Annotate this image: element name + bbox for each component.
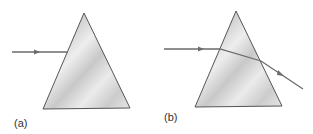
prism-diagram xyxy=(0,0,313,134)
arrow-icon xyxy=(34,50,40,55)
arrow-icon xyxy=(277,70,284,76)
panel-b-label: (b) xyxy=(164,111,177,123)
panel-a xyxy=(12,13,130,109)
panel-b xyxy=(164,11,303,107)
prism-a xyxy=(43,13,130,109)
prism-b xyxy=(195,11,282,107)
arrow-icon xyxy=(198,47,204,52)
panel-a-label: (a) xyxy=(14,117,27,129)
